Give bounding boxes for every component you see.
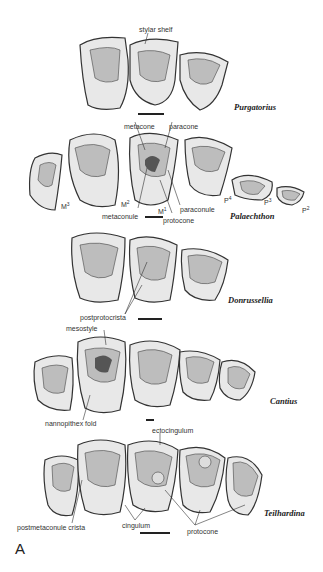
donrussellia-teeth <box>72 233 228 302</box>
label-stylar-shelf: stylar shelf <box>139 26 172 33</box>
tooth-label-m1: M1 <box>158 207 167 215</box>
label-protocone-teilhardina: protocone <box>187 528 218 535</box>
label-mesostyle: mesostyle <box>66 325 98 332</box>
taxon-donrussellia: Donrussellia <box>228 295 273 305</box>
label-postprotocrista: postprotocrista <box>80 314 126 321</box>
taxon-cantius: Cantius <box>270 396 297 406</box>
taxon-palaechthon: Palaechthon <box>230 211 274 221</box>
tooth-label-p2: P2 <box>302 206 309 214</box>
tooth-label-p4: P4 <box>224 196 231 204</box>
label-paraconule: paraconule <box>180 206 215 213</box>
tooth-number: 3 <box>269 197 272 203</box>
tooth-number: 2 <box>307 205 310 211</box>
scale-bar <box>145 216 163 218</box>
tooth-number: 1 <box>164 206 167 212</box>
label-protocone: protocone <box>163 217 194 224</box>
cantius-teeth <box>34 337 255 413</box>
label-metacone: metacone <box>124 123 155 130</box>
tooth-number: 4 <box>229 195 232 201</box>
label-cingulum: cingulum <box>122 522 150 529</box>
label-metaconule: metaconule <box>102 213 138 220</box>
purgatorius-teeth <box>80 37 228 110</box>
scale-bar <box>138 113 164 115</box>
tooth-label-p3: P3 <box>264 198 271 206</box>
label-paracone: paracone <box>169 123 198 130</box>
label-ectocingulum: ectocingulum <box>152 427 193 434</box>
teilhardina-teeth <box>44 440 262 516</box>
scale-bar <box>146 419 154 421</box>
scale-bar <box>138 318 162 320</box>
label-nannopithex-fold: nannopithex fold <box>45 420 96 427</box>
tooth-label-m2: M2 <box>121 200 130 208</box>
label-postmetaconule-crista: postmetaconule crista <box>17 524 85 531</box>
scale-bar <box>140 532 170 534</box>
panel-label: A <box>15 540 25 557</box>
taxon-purgatorius: Purgatorius <box>234 102 276 112</box>
tooth-number: 2 <box>127 199 130 205</box>
tooth-number: 3 <box>67 201 70 207</box>
tooth-label-m3: M3 <box>61 202 70 210</box>
teeth-illustration <box>0 0 323 572</box>
taxon-teilhardina: Teilhardina <box>264 508 305 518</box>
